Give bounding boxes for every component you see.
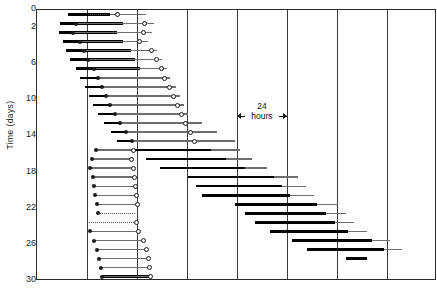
onset-marker: [96, 76, 100, 80]
onset-marker: [88, 166, 92, 170]
activity-bout-bar: [135, 149, 211, 152]
marker-connector-line: [102, 86, 169, 87]
onset-marker: [92, 184, 96, 188]
marker-connector-line: [106, 95, 173, 96]
record-row: [37, 101, 435, 108]
record-row: [37, 237, 435, 244]
offset-marker: [148, 274, 153, 279]
marker-connector-line: [96, 149, 133, 150]
onset-marker: [108, 103, 112, 107]
offset-marker: [183, 121, 188, 126]
offset-marker: [179, 112, 184, 117]
y-tick-label-2: 2: [14, 22, 36, 31]
activity-tail: [326, 213, 346, 214]
activity-bout-bar: [188, 176, 274, 179]
y-tick-label-6: 6: [14, 58, 36, 67]
record-row: [37, 20, 435, 27]
record-row: [37, 210, 435, 217]
annotation-value: 24: [237, 101, 287, 111]
onset-marker: [104, 94, 108, 98]
record-row: [37, 156, 435, 163]
marker-connector-line: [97, 249, 146, 250]
record-row: [37, 219, 435, 226]
marker-connector-line: [90, 231, 138, 232]
onset-marker: [95, 202, 99, 206]
offset-marker: [149, 48, 154, 53]
activity-bout-bar: [307, 248, 384, 251]
activity-bout-bar: [146, 158, 226, 161]
record-row: [37, 11, 435, 18]
record-row: [37, 92, 435, 99]
duration-annotation: 24 hours: [237, 101, 287, 121]
activity-bout-bar: [245, 212, 326, 215]
activity-bout-bar: [235, 203, 317, 206]
onset-marker: [95, 248, 99, 252]
activity-tail: [348, 231, 367, 232]
marker-connector-line: [97, 204, 137, 205]
record-row: [37, 74, 435, 81]
offset-marker: [147, 265, 152, 270]
offset-marker: [132, 175, 137, 180]
onset-marker: [118, 121, 122, 125]
y-tick-label-18: 18: [14, 167, 36, 176]
onset-marker: [71, 31, 75, 35]
y-tick-label-30: 30: [14, 275, 36, 284]
offset-marker: [129, 157, 134, 162]
record-row: [37, 165, 435, 172]
record-row: [37, 255, 435, 262]
activity-tail: [372, 240, 390, 241]
activity-bout-bar: [346, 257, 367, 260]
onset-marker: [100, 275, 104, 279]
offset-marker: [136, 229, 141, 234]
record-row: [37, 201, 435, 208]
offset-marker: [144, 247, 149, 252]
activity-bout-bar: [270, 230, 348, 233]
offset-marker: [142, 21, 147, 26]
marker-connector-line: [120, 122, 185, 123]
offset-marker: [146, 256, 151, 261]
marker-connector-line: [76, 23, 144, 24]
arrow-head-right: [283, 113, 287, 119]
onset-marker: [88, 229, 92, 233]
record-row: [37, 110, 435, 117]
record-row: [37, 129, 435, 136]
onset-marker: [100, 85, 104, 89]
record-row: [37, 83, 435, 90]
offset-marker: [135, 202, 140, 207]
record-row: [37, 47, 435, 54]
offset-marker: [167, 85, 172, 90]
onset-marker: [78, 40, 82, 44]
activity-tail: [282, 186, 306, 187]
activity-bout-bar: [160, 167, 245, 170]
y-tick-label-22: 22: [14, 203, 36, 212]
record-row: [37, 174, 435, 181]
y-tick-label-10: 10: [14, 94, 36, 103]
onset-marker: [113, 112, 117, 116]
offset-marker: [134, 220, 139, 225]
plot-area: 24 hours: [36, 9, 436, 280]
annotation-unit-row: hours: [237, 111, 287, 121]
record-row: [37, 192, 435, 199]
record-row: [37, 273, 435, 279]
offset-marker: [162, 76, 167, 81]
activity-tail: [211, 149, 240, 150]
record-row: [37, 29, 435, 36]
onset-marker: [99, 266, 103, 270]
offset-marker: [141, 238, 146, 243]
marker-connector-line: [115, 113, 181, 114]
record-row: [37, 246, 435, 253]
onset-marker: [82, 49, 86, 53]
marker-connector-line: [90, 167, 133, 168]
offset-marker: [134, 193, 139, 198]
y-tick-label-0: 0: [14, 4, 36, 13]
onset-marker: [130, 139, 134, 143]
onset-marker: [96, 211, 100, 215]
onset-marker: [92, 67, 96, 71]
offset-marker: [141, 30, 146, 35]
arrow-head-left: [237, 113, 241, 119]
onset-marker: [74, 22, 78, 26]
record-row: [37, 38, 435, 45]
marker-connector-line: [84, 50, 151, 51]
activity-tail: [274, 176, 298, 177]
marker-connector-line: [110, 104, 177, 105]
